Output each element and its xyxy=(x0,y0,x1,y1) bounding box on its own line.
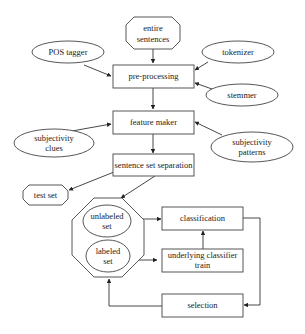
node-pre-processing: pre-processing xyxy=(113,65,194,88)
edge-stemmer-to-preprocessing xyxy=(195,83,212,89)
node-subjectivity-patterns: subjectivity patterns xyxy=(211,132,293,162)
edge-clues-to-featuremaker xyxy=(72,124,111,131)
node-underlying-classifier-train: underlying classifier train xyxy=(162,249,243,272)
node-label-line1: labeled xyxy=(96,246,121,256)
node-pos-tagger: POS tagger xyxy=(32,41,104,63)
node-label: selection xyxy=(187,300,218,310)
node-tokenizer: tokenizer xyxy=(202,41,274,63)
edge-postagger-to-preprocessing xyxy=(84,65,111,76)
edge-classification-to-selection xyxy=(243,218,260,305)
node-label-line2: set xyxy=(102,221,112,231)
node-subjectivity-clues: subjectivity clues xyxy=(14,129,94,157)
node-label: feature maker xyxy=(130,117,177,127)
node-label: test set xyxy=(34,190,58,200)
node-label-line2: train xyxy=(195,260,211,270)
node-label: stemmer xyxy=(227,90,256,100)
node-sentence-set-separation: sentence set separation xyxy=(113,154,194,176)
node-selection: selection xyxy=(162,294,243,317)
node-label-line1: subjectivity xyxy=(232,137,272,147)
node-unlabeled-set: unlabeled set xyxy=(83,205,131,237)
flow-diagram: entire sentences POS tagger tokenizer st… xyxy=(0,0,305,334)
edge-tokenizer-to-preprocessing xyxy=(195,62,208,70)
node-label: POS tagger xyxy=(49,47,88,57)
node-label: classification xyxy=(180,213,226,223)
node-stemmer: stemmer xyxy=(206,84,278,106)
edge-patterns-to-featuremaker xyxy=(195,122,222,135)
edge-separation-to-testset xyxy=(69,172,114,190)
node-label-line2: patterns xyxy=(239,147,266,157)
node-classification: classification xyxy=(162,207,243,230)
node-test-set: test set xyxy=(23,185,68,205)
node-label-line2: clues xyxy=(45,143,62,153)
node-entire-sentences: entire sentences xyxy=(126,17,180,49)
node-label-line1: underlying classifier xyxy=(168,250,238,260)
node-label-line1: subjectivity xyxy=(34,133,74,143)
edge-selection-to-setcontainer xyxy=(109,279,162,306)
node-label: tokenizer xyxy=(222,47,254,57)
node-label-line2: sentences xyxy=(137,34,170,44)
node-label: sentence set separation xyxy=(115,160,194,170)
octagon-shape xyxy=(126,17,180,49)
node-labeled-set: labeled set xyxy=(86,240,130,272)
node-label-line2: set xyxy=(103,256,113,266)
node-label-line1: unlabeled xyxy=(90,211,124,221)
node-feature-maker: feature maker xyxy=(113,111,194,134)
node-label: pre-processing xyxy=(128,71,179,81)
edge-separation-to-setcontainer xyxy=(121,176,155,198)
node-label-line1: entire xyxy=(143,23,163,33)
